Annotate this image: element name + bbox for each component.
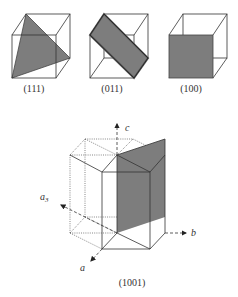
b-axis-label: b bbox=[191, 227, 196, 238]
plane-011 bbox=[90, 14, 148, 78]
plane-111 bbox=[12, 14, 70, 78]
cube-100 bbox=[169, 14, 227, 78]
a-axis bbox=[91, 249, 102, 261]
label-1001: (1001) bbox=[119, 277, 146, 289]
a3-axis-label: a3 bbox=[40, 191, 49, 204]
cube-011 bbox=[90, 14, 148, 78]
label-100: (100) bbox=[180, 83, 202, 95]
cube-111 bbox=[12, 14, 70, 78]
hexagonal-prism bbox=[70, 139, 165, 249]
plane-1001 bbox=[117, 139, 165, 233]
label-111: (111) bbox=[24, 83, 45, 95]
a-axis-label: a bbox=[80, 262, 85, 273]
a3-axis bbox=[61, 205, 117, 233]
crystal-planes-diagram: (111) (011) (100) bbox=[0, 0, 238, 297]
plane-100 bbox=[169, 35, 213, 78]
c-axis-label: c bbox=[125, 122, 130, 133]
label-011: (011) bbox=[101, 83, 122, 95]
